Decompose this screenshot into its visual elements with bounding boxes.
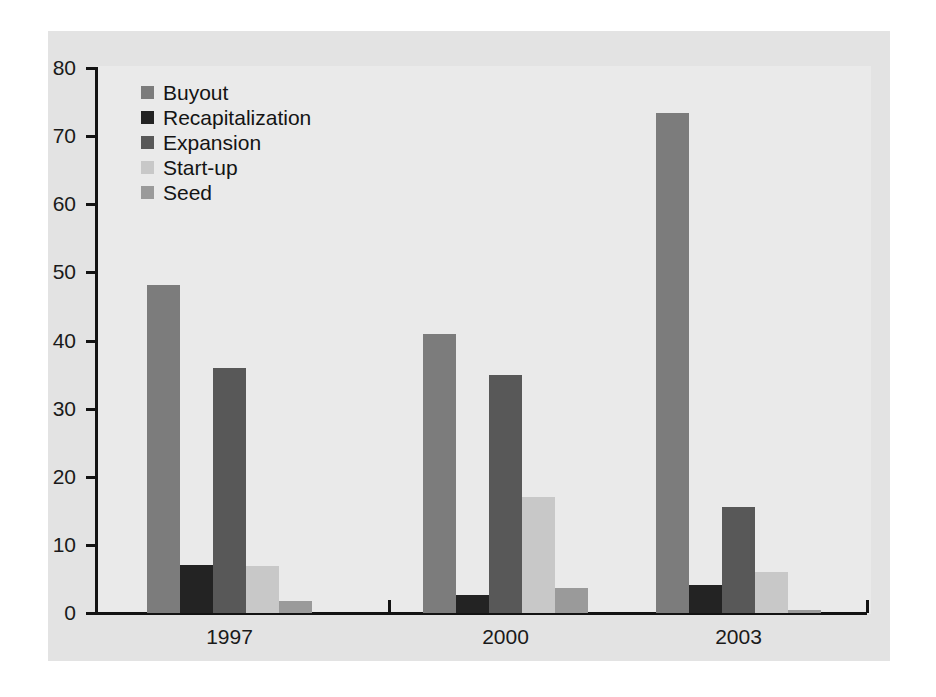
- chart-legend: BuyoutRecapitalizationExpansionStart-upS…: [141, 80, 311, 205]
- bar: [279, 601, 312, 613]
- legend-item-label: Recapitalization: [163, 107, 311, 128]
- legend-item: Start-up: [141, 155, 311, 180]
- bar: [656, 113, 689, 613]
- legend-swatch-icon: [141, 86, 154, 99]
- bar: [423, 334, 456, 613]
- legend-swatch-icon: [141, 186, 154, 199]
- x-axis-group-label: 1997: [170, 624, 290, 649]
- legend-item-label: Seed: [163, 182, 212, 203]
- legend-item-label: Expansion: [163, 132, 261, 153]
- legend-swatch-icon: [141, 161, 154, 174]
- bar: [755, 572, 788, 613]
- bar: [788, 610, 821, 613]
- legend-swatch-icon: [141, 111, 154, 124]
- bar: [456, 595, 489, 613]
- x-axis-group-label: 2003: [679, 624, 799, 649]
- bar: [555, 588, 588, 613]
- legend-item: Recapitalization: [141, 105, 311, 130]
- bar: [180, 565, 213, 613]
- legend-item-label: Start-up: [163, 157, 238, 178]
- bar: [489, 375, 522, 613]
- legend-item: Expansion: [141, 130, 311, 155]
- bar: [689, 585, 722, 613]
- bar: [147, 285, 180, 613]
- chart-figure: 01020304050607080 199720002003 BuyoutRec…: [0, 0, 936, 697]
- legend-item: Seed: [141, 180, 311, 205]
- bar: [522, 497, 555, 613]
- bar: [246, 566, 279, 613]
- legend-item-label: Buyout: [163, 82, 228, 103]
- legend-item: Buyout: [141, 80, 311, 105]
- bar: [213, 368, 246, 613]
- bar: [722, 507, 755, 613]
- x-axis-group-label: 2000: [446, 624, 566, 649]
- legend-swatch-icon: [141, 136, 154, 149]
